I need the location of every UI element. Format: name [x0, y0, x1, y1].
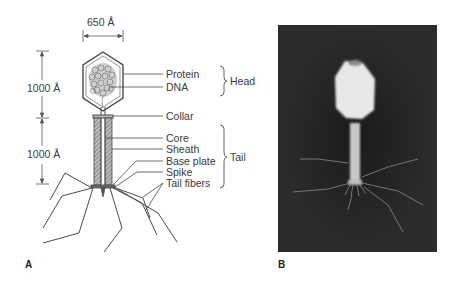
phage-tail [91, 118, 115, 197]
electron-micrograph [278, 25, 437, 252]
phage-head [83, 52, 123, 111]
head-height-label: 1000 Å [27, 83, 60, 94]
group-head-label: Head [230, 76, 255, 87]
label-dna: DNA [166, 82, 188, 93]
panel-a-letter: A [25, 259, 32, 270]
tail-height-label: 1000 Å [27, 149, 60, 160]
height-dimension [36, 51, 49, 184]
panel-b-letter: B [278, 259, 285, 270]
label-protein: Protein [166, 69, 199, 80]
group-tail-label: Tail [230, 152, 246, 163]
width-label: 650 Å [87, 17, 114, 28]
label-collar: Collar [166, 111, 193, 122]
group-braces [220, 66, 227, 188]
micrograph-phage [278, 25, 437, 252]
label-sheath: Sheath [166, 144, 199, 155]
label-tail-fibers: Tail fibers [166, 178, 210, 189]
width-dimension [83, 30, 123, 42]
